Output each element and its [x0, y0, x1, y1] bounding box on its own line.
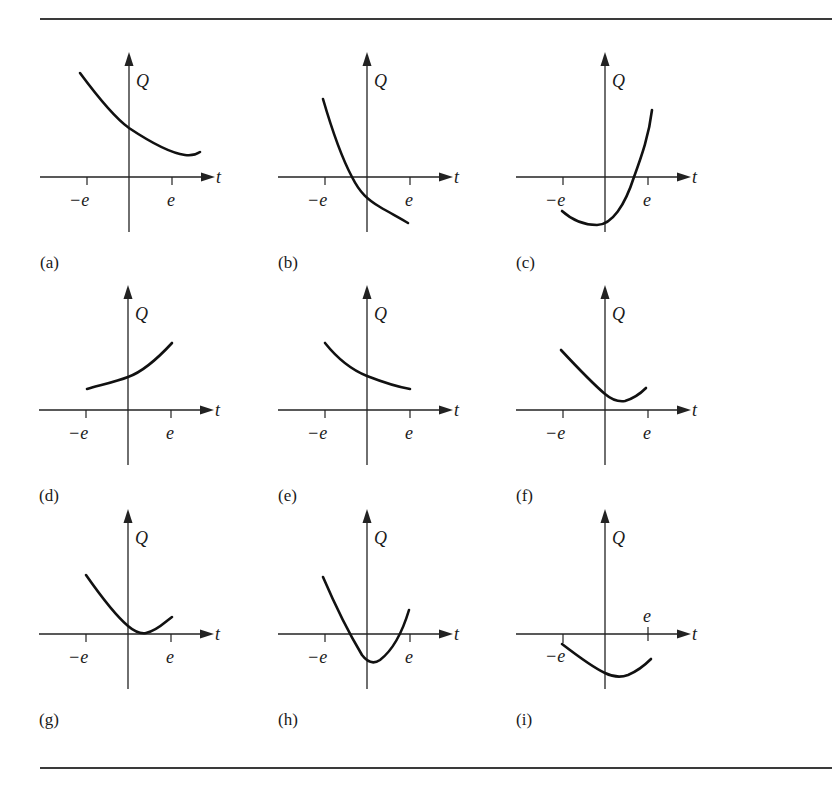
arrow-up-icon	[125, 52, 134, 66]
q-axis-label: Q	[135, 528, 148, 548]
curve-g	[86, 575, 172, 633]
tick-label-pos-e: e	[166, 423, 174, 443]
curve-c	[562, 110, 652, 225]
arrow-up-icon	[124, 509, 133, 523]
arrow-right-icon	[677, 173, 691, 182]
arrow-up-icon	[601, 509, 610, 523]
panel-label-a: (a)	[40, 253, 59, 272]
curve-h	[323, 577, 409, 662]
panel-c: Qt−ee(c)	[516, 52, 698, 272]
tick-label-neg-e: −e	[545, 423, 565, 443]
q-axis-label: Q	[374, 528, 387, 548]
q-axis-label: Q	[135, 304, 148, 324]
figure-canvas: Qt−ee(a)Qt−ee(b)Qt−ee(c)Qt−ee(d)Qt−ee(e)…	[0, 0, 832, 792]
q-axis-label: Q	[612, 71, 625, 91]
q-axis-label: Q	[136, 71, 149, 91]
t-axis-label: t	[215, 400, 221, 420]
tick-label-pos-e: e	[405, 190, 413, 210]
panel-f: Qt−ee(f)	[516, 285, 698, 505]
tick-label-neg-e: −e	[545, 190, 565, 210]
panel-label-i: (i)	[516, 710, 532, 729]
arrow-up-icon	[363, 509, 372, 523]
arrow-right-icon	[200, 406, 214, 415]
arrow-right-icon	[439, 630, 453, 639]
tick-label-neg-e: −e	[69, 190, 89, 210]
t-axis-label: t	[454, 167, 460, 187]
panel-i: Qt−ee(i)	[516, 509, 698, 729]
panel-label-f: (f)	[516, 486, 533, 505]
t-axis-label: t	[692, 400, 698, 420]
tick-label-pos-e: e	[643, 190, 651, 210]
arrow-right-icon	[439, 173, 453, 182]
tick-label-pos-e: e	[166, 647, 174, 667]
t-axis-label: t	[215, 624, 221, 644]
panel-h: Qt−ee(h)	[278, 509, 460, 729]
panel-label-b: (b)	[278, 253, 298, 272]
curve-i	[562, 644, 651, 677]
arrow-up-icon	[601, 285, 610, 299]
tick-label-pos-e: e	[643, 606, 651, 626]
tick-label-neg-e: −e	[68, 647, 88, 667]
q-axis-label: Q	[612, 304, 625, 324]
q-axis-label: Q	[374, 71, 387, 91]
t-axis-label: t	[454, 400, 460, 420]
t-axis-label: t	[692, 624, 698, 644]
tick-label-neg-e: −e	[68, 423, 88, 443]
tick-label-pos-e: e	[405, 423, 413, 443]
arrow-up-icon	[601, 52, 610, 66]
arrow-right-icon	[201, 173, 215, 182]
tick-label-pos-e: e	[405, 647, 413, 667]
panel-a: Qt−ee(a)	[40, 52, 222, 272]
tick-label-pos-e: e	[167, 190, 175, 210]
tick-label-neg-e: −e	[545, 646, 565, 666]
arrow-right-icon	[677, 630, 691, 639]
arrow-right-icon	[200, 630, 214, 639]
t-axis-label: t	[454, 624, 460, 644]
panel-d: Qt−ee(d)	[39, 285, 221, 505]
panel-label-g: (g)	[39, 710, 59, 729]
q-axis-label: Q	[612, 528, 625, 548]
tick-label-neg-e: −e	[307, 190, 327, 210]
panel-label-c: (c)	[516, 253, 535, 272]
arrow-up-icon	[124, 285, 133, 299]
curve-d	[87, 343, 172, 389]
tick-label-neg-e: −e	[307, 647, 327, 667]
panel-b: Qt−ee(b)	[278, 52, 460, 272]
arrow-right-icon	[677, 406, 691, 415]
arrow-right-icon	[439, 406, 453, 415]
panel-label-d: (d)	[39, 486, 59, 505]
arrow-up-icon	[363, 52, 372, 66]
t-axis-label: t	[216, 167, 222, 187]
panel-g: Qt−ee(g)	[39, 509, 221, 729]
panel-e: Qt−ee(e)	[278, 285, 460, 505]
panel-label-e: (e)	[278, 486, 297, 505]
t-axis-label: t	[692, 167, 698, 187]
tick-label-pos-e: e	[643, 423, 651, 443]
q-axis-label: Q	[374, 304, 387, 324]
tick-label-neg-e: −e	[307, 423, 327, 443]
curve-b	[323, 99, 408, 223]
panel-label-h: (h)	[278, 710, 298, 729]
curve-f	[561, 350, 646, 401]
arrow-up-icon	[363, 285, 372, 299]
